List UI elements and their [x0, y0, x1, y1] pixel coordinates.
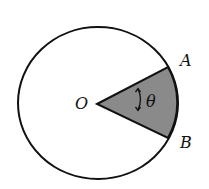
circle-sector-diagram: O A B θ	[0, 0, 209, 189]
label-B: B	[179, 133, 192, 152]
label-theta: θ	[146, 92, 156, 111]
shaded-sector	[97, 67, 177, 138]
label-A: A	[178, 51, 192, 70]
label-O: O	[75, 94, 88, 113]
